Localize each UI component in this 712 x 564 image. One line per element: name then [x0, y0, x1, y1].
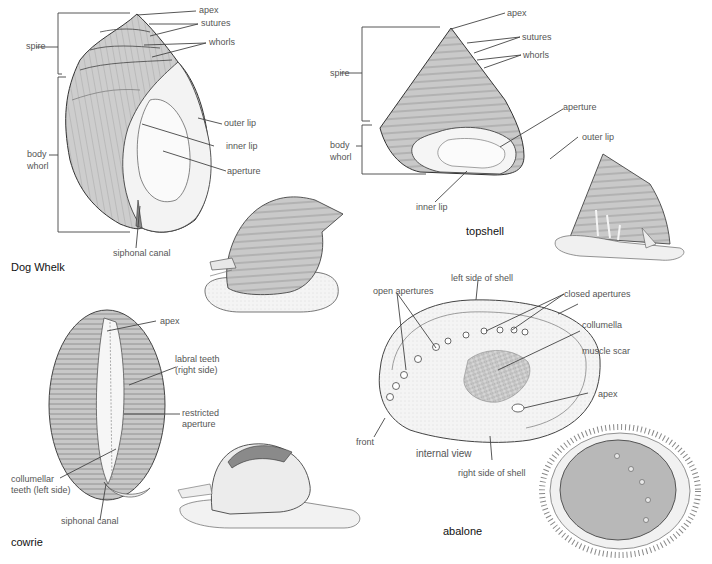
label-cowrie-restricted: restricted [182, 408, 219, 419]
label-dog-whelk-apex: apex [199, 5, 219, 16]
label-cowrie-right-side: (right side) [175, 365, 218, 376]
topshell-shell [380, 28, 524, 175]
illustrations [0, 0, 712, 564]
label-cowrie-apex: apex [160, 316, 180, 327]
label-dog-whelk-sutures: sutures [201, 18, 231, 29]
label-abalone-front: front [356, 437, 374, 448]
label-topshell-whorl: whorl [330, 152, 352, 163]
label-topshell-whorls: whorls [523, 50, 549, 61]
label-dog-whelk-outer-lip: outer lip [224, 118, 256, 129]
cowrie-animal [178, 444, 360, 528]
dog-whelk-animal [205, 197, 343, 312]
dog-whelk-shell [66, 14, 211, 232]
label-topshell-body: body [330, 140, 350, 151]
label-abalone-apex: apex [598, 389, 618, 400]
label-topshell-sutures: sutures [522, 32, 552, 43]
label-abalone-muscle-scar: muscle scar [582, 346, 630, 357]
label-dog-whelk-whorls: whorls [209, 37, 235, 48]
label-dog-whelk-spire: spire [26, 41, 46, 52]
title-dog-whelk: Dog Whelk [11, 261, 65, 273]
label-abalone-left-side: left side of shell [451, 273, 513, 284]
abalone-shell-internal [379, 300, 600, 443]
label-abalone-open-apertures: open apertures [373, 286, 434, 297]
label-abalone-closed-apertures: closed apertures [564, 289, 631, 300]
label-topshell-apex: apex [507, 8, 527, 19]
label-cowrie-left-side: teeth (left side) [11, 485, 71, 496]
label-abalone-right-side: right side of shell [458, 468, 526, 479]
cowrie-shell [49, 310, 165, 500]
label-topshell-outer-lip: outer lip [582, 132, 614, 143]
label-cowrie-labral-teeth: labral teeth [175, 354, 220, 365]
title-cowrie: cowrie [11, 536, 43, 548]
label-dog-whelk-body: body [27, 149, 47, 160]
label-dog-whelk-siphonal-canal: siphonal canal [113, 248, 171, 259]
label-abalone-collumella: collumella [582, 320, 622, 331]
abalone-animal [542, 427, 698, 555]
label-dog-whelk-aperture: aperture [227, 166, 261, 177]
label-cowrie-siphonal-canal: siphonal canal [61, 516, 119, 527]
title-abalone: abalone [443, 525, 482, 537]
label-topshell-aperture: aperture [563, 102, 597, 113]
gastropod-diagram: apex sutures whorls spire body whorl out… [0, 0, 712, 564]
label-dog-whelk-whorl: whorl [27, 161, 49, 172]
label-topshell-inner-lip: inner lip [416, 202, 448, 213]
label-dog-whelk-inner-lip: inner lip [226, 141, 258, 152]
label-cowrie-aperture: aperture [182, 419, 216, 430]
label-topshell-spire: spire [330, 68, 350, 79]
title-topshell: topshell [466, 225, 504, 237]
topshell-animal [555, 154, 684, 260]
label-cowrie-collumellar: collumellar [11, 474, 54, 485]
label-abalone-internal-view: internal view [416, 448, 472, 459]
